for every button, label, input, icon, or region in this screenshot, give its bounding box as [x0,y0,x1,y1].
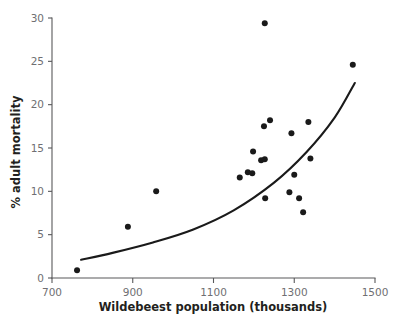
x-axis-tick-labels: 700900110013001500 [42,286,388,298]
scatter-plot-figure: 051015202530 700900110013001500 Wildebee… [0,0,396,330]
data-point [261,123,267,129]
x-axis-group: 700900110013001500 [42,278,388,298]
x-tick-label: 1300 [281,286,308,298]
data-point [250,148,256,154]
y-axis-ticks [48,18,52,278]
x-tick-label: 1100 [200,286,227,298]
x-tick-label: 900 [123,286,143,298]
data-point [296,195,302,201]
y-tick-label: 30 [31,12,44,24]
y-tick-label: 10 [31,185,44,197]
y-tick-label: 20 [31,98,44,110]
x-axis-title: Wildebeest population (thousands) [99,300,328,314]
data-point [262,20,268,26]
data-point [307,155,313,161]
x-tick-label: 1500 [362,286,389,298]
trend-curve [81,83,355,260]
data-point [262,195,268,201]
data-point [288,130,294,136]
y-tick-label: 15 [31,142,44,154]
data-point [291,172,297,178]
y-tick-label: 5 [37,228,44,240]
data-point [300,209,306,215]
data-point [125,224,131,230]
data-point [350,62,356,68]
data-point [267,117,273,123]
y-axis-title: % adult mortality [9,95,23,208]
y-tick-label: 25 [31,55,44,67]
y-axis-group: 051015202530 [31,12,52,284]
y-axis-tick-labels: 051015202530 [31,12,44,284]
data-point [305,119,311,125]
data-point [153,188,159,194]
x-axis-ticks [52,278,375,283]
data-points-group [74,20,356,273]
data-point [237,174,243,180]
data-point [74,267,80,273]
x-tick-label: 700 [42,286,62,298]
y-tick-label: 0 [37,272,44,284]
trend-line-group [81,83,355,260]
data-point [262,156,268,162]
data-point [249,170,255,176]
data-point [286,189,292,195]
plot-canvas: 051015202530 700900110013001500 Wildebee… [0,0,396,330]
